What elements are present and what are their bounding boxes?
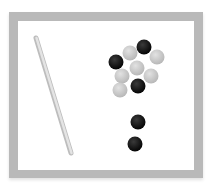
black-bead[interactable]: [128, 137, 143, 152]
bead-cluster: [109, 40, 165, 152]
scene-canvas: [0, 0, 214, 190]
gray-bead[interactable]: [123, 46, 138, 61]
gray-bead[interactable]: [130, 61, 145, 76]
gray-bead[interactable]: [150, 50, 165, 65]
black-bead[interactable]: [109, 55, 124, 70]
black-bead[interactable]: [131, 79, 146, 94]
gray-bead[interactable]: [115, 69, 130, 84]
black-bead[interactable]: [137, 40, 152, 55]
black-bead[interactable]: [131, 115, 146, 130]
stick[interactable]: [36, 38, 72, 153]
gray-bead[interactable]: [144, 69, 159, 84]
gray-bead[interactable]: [113, 83, 128, 98]
